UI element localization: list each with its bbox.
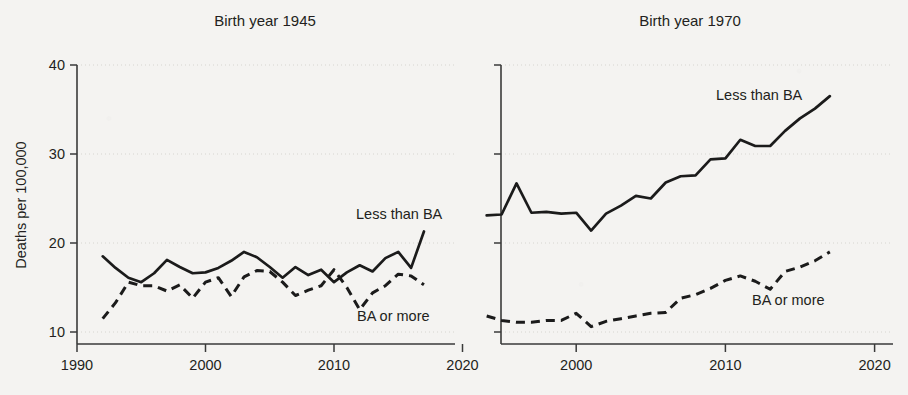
series-label-ba-or-more: BA or more bbox=[357, 308, 430, 324]
series-line-less-than-ba bbox=[487, 96, 830, 230]
x-tick-label: 2000 bbox=[560, 357, 592, 373]
series-line-ba-or-more bbox=[487, 252, 830, 327]
series-label-less-than-ba: Less than BA bbox=[716, 87, 803, 103]
y-tick-label: 40 bbox=[49, 57, 65, 73]
panel-left-xticklabels: 1990200020102020 bbox=[61, 357, 479, 373]
y-tick-label: 20 bbox=[49, 235, 65, 251]
panel-right-axes bbox=[494, 65, 893, 352]
series-label-ba-or-more: BA or more bbox=[752, 292, 825, 308]
x-tick-label: 2020 bbox=[446, 357, 478, 373]
y-tick-label: 30 bbox=[49, 146, 65, 162]
series-label-less-than-ba: Less than BA bbox=[356, 206, 443, 222]
dual-panel-line-chart: Birth year 1945 Deaths per 100,000 40302… bbox=[0, 0, 908, 395]
panel-left-title: Birth year 1945 bbox=[214, 12, 316, 29]
x-tick-label: 1990 bbox=[61, 357, 93, 373]
y-tick-label: 10 bbox=[49, 324, 65, 340]
panel-right-gridlines bbox=[501, 65, 893, 332]
panel-left-yticklabels: 40302010 bbox=[49, 57, 65, 340]
y-axis-title: Deaths per 100,000 bbox=[13, 141, 29, 268]
x-tick-label: 2010 bbox=[318, 357, 350, 373]
panel-right-title: Birth year 1970 bbox=[639, 12, 741, 29]
panel-right: Birth year 1970 200020102020 Less than B… bbox=[487, 12, 893, 373]
x-tick-label: 2020 bbox=[858, 357, 890, 373]
panel-left-gridlines bbox=[77, 65, 455, 332]
x-tick-label: 2010 bbox=[709, 357, 741, 373]
panel-right-xticklabels: 200020102020 bbox=[560, 357, 891, 373]
panel-left: Birth year 1945 Deaths per 100,000 40302… bbox=[13, 12, 479, 373]
figure-root: Birth year 1945 Deaths per 100,000 40302… bbox=[0, 0, 908, 395]
x-tick-label: 2000 bbox=[189, 357, 221, 373]
series-line-less-than-ba bbox=[103, 231, 424, 282]
